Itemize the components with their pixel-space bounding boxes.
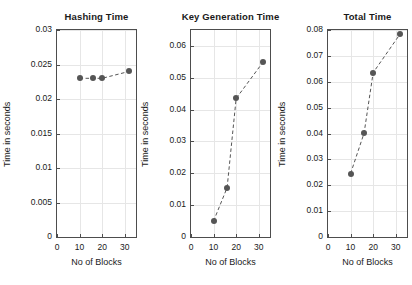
y-axis-tick — [327, 108, 331, 109]
y-axis-tick-label: 0 — [287, 232, 323, 241]
y-axis-tick-label: 0.03 — [150, 136, 186, 145]
data-point — [348, 171, 354, 177]
y-axis-tick-label: 0.04 — [150, 105, 186, 114]
data-point — [361, 130, 367, 136]
y-axis-tick — [190, 110, 194, 111]
y-axis-tick — [327, 159, 331, 160]
y-axis-tick-label: 0.07 — [287, 51, 323, 60]
x-axis-label: No of Blocks — [297, 258, 412, 267]
plot-area — [190, 29, 271, 238]
x-axis-tick — [80, 234, 81, 238]
gridline-vertical — [396, 30, 397, 237]
y-axis-tick-label: 0.02 — [12, 94, 52, 103]
gridline-vertical — [102, 30, 103, 237]
y-axis-tick — [190, 173, 194, 174]
y-axis-tick — [56, 65, 60, 66]
y-axis-tick-label: 0.06 — [287, 77, 323, 86]
x-axis-tick-label: 30 — [243, 243, 275, 252]
gridline-vertical — [351, 30, 352, 237]
y-axis-tick — [327, 134, 331, 135]
x-axis-tick-label: 30 — [109, 243, 141, 252]
x-axis-tick — [102, 234, 103, 238]
y-axis-tick — [327, 56, 331, 57]
y-axis-tick — [327, 82, 331, 83]
x-axis-tick — [57, 234, 58, 238]
x-axis-tick — [259, 234, 260, 238]
plot-area — [56, 29, 137, 238]
y-axis-tick — [56, 203, 60, 204]
subplot-2: Key Generation Time00.010.020.030.040.05… — [138, 0, 278, 285]
x-axis-tick — [396, 234, 397, 238]
y-axis-tick — [190, 141, 194, 142]
x-axis-tick — [214, 234, 215, 238]
y-axis-tick — [190, 78, 194, 79]
y-axis-tick — [190, 205, 194, 206]
y-axis-tick-label: 0.01 — [287, 206, 323, 215]
y-axis-label: Time in seconds — [141, 101, 150, 166]
y-axis-tick-label: 0.025 — [12, 60, 52, 69]
gridline-vertical — [80, 30, 81, 237]
plot-area — [327, 29, 408, 238]
y-axis-label: Time in seconds — [3, 101, 12, 166]
y-axis-tick-label: 0.01 — [12, 163, 52, 172]
x-axis-tick — [328, 234, 329, 238]
data-point — [233, 95, 239, 101]
gridline-vertical — [214, 30, 215, 237]
x-axis-tick — [351, 234, 352, 238]
y-axis-tick — [327, 30, 331, 31]
y-axis-tick-label: 0.05 — [287, 103, 323, 112]
gridline-vertical — [236, 30, 237, 237]
y-axis-tick-label: 0.02 — [150, 168, 186, 177]
data-point — [90, 75, 96, 81]
y-axis-tick-label: 0.08 — [287, 25, 323, 34]
subplot-3: Total Time00.010.020.030.040.050.060.070… — [275, 0, 412, 285]
y-axis-tick-label: 0.03 — [287, 154, 323, 163]
y-axis-tick — [56, 30, 60, 31]
y-axis-tick-label: 0.005 — [12, 198, 52, 207]
y-axis-tick — [56, 99, 60, 100]
data-point — [370, 70, 376, 76]
data-point — [126, 68, 132, 74]
gridline-vertical — [373, 30, 374, 237]
y-axis-tick-label: 0.06 — [150, 41, 186, 50]
y-axis-tick-label: 0.03 — [12, 25, 52, 34]
x-axis-tick-label: 30 — [380, 243, 412, 252]
y-axis-tick-label: 0.015 — [12, 129, 52, 138]
figure-canvas: Hashing Time00.0050.010.0150.020.0250.03… — [0, 0, 412, 285]
x-axis-tick — [373, 234, 374, 238]
data-point — [211, 218, 217, 224]
x-axis-tick — [191, 234, 192, 238]
x-axis-tick — [236, 234, 237, 238]
subplot-1: Hashing Time00.0050.010.0150.020.0250.03… — [0, 0, 140, 285]
y-axis-tick-label: 0 — [12, 232, 52, 241]
y-axis-label: Time in seconds — [278, 101, 287, 166]
y-axis-tick — [56, 168, 60, 169]
data-point — [224, 185, 230, 191]
y-axis-tick — [56, 134, 60, 135]
data-point — [260, 59, 266, 65]
chart-title: Total Time — [283, 11, 412, 22]
data-point — [77, 75, 83, 81]
y-axis-tick — [190, 46, 194, 47]
y-axis-tick — [327, 185, 331, 186]
y-axis-tick — [327, 211, 331, 212]
y-axis-tick-label: 0 — [150, 232, 186, 241]
data-point — [397, 31, 403, 37]
gridline-vertical — [125, 30, 126, 237]
x-axis-tick — [125, 234, 126, 238]
y-axis-tick-label: 0.04 — [287, 129, 323, 138]
y-axis-tick-label: 0.02 — [287, 180, 323, 189]
y-axis-tick-label: 0.05 — [150, 73, 186, 82]
y-axis-tick-label: 0.01 — [150, 200, 186, 209]
data-point — [99, 75, 105, 81]
